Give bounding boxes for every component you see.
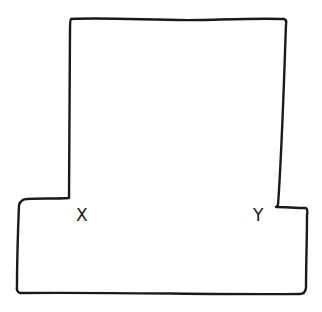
diagram-canvas: X Y [0, 0, 322, 312]
label-y: Y [252, 205, 264, 225]
label-x: X [76, 205, 88, 225]
shape-outline [17, 18, 308, 294]
